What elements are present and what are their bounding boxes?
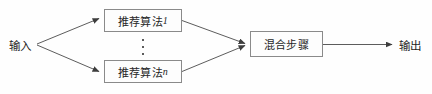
node-label-text: 混合步骤 — [264, 36, 309, 52]
diagram-canvas: 输入 推荐算法1 推荐算法n 混合步骤 输出 — [0, 0, 432, 94]
node-label-index: 1 — [163, 15, 168, 26]
ellipsis-dot — [142, 46, 144, 48]
edge-input-to-algorithm-first — [37, 19, 99, 45]
ellipsis-dot — [142, 53, 144, 55]
edge-algorithm-last-to-blend — [182, 46, 245, 72]
edge-algorithm-first-to-blend — [182, 21, 245, 44]
diagram-connectors — [0, 0, 432, 94]
vertical-ellipsis-icon — [136, 37, 150, 57]
output-label: 输出 — [399, 37, 422, 53]
ellipsis-dot — [142, 39, 144, 41]
node-recommendation-algorithm-last: 推荐算法n — [104, 60, 182, 83]
node-label-text: 推荐算法 — [118, 13, 163, 29]
edge-input-to-algorithm-last — [37, 45, 99, 72]
node-blend-step: 混合步骤 — [250, 31, 323, 57]
node-label-index: n — [163, 66, 168, 77]
node-label-text: 推荐算法 — [118, 64, 163, 80]
node-recommendation-algorithm-first: 推荐算法1 — [104, 9, 182, 32]
input-label: 输入 — [9, 37, 32, 53]
